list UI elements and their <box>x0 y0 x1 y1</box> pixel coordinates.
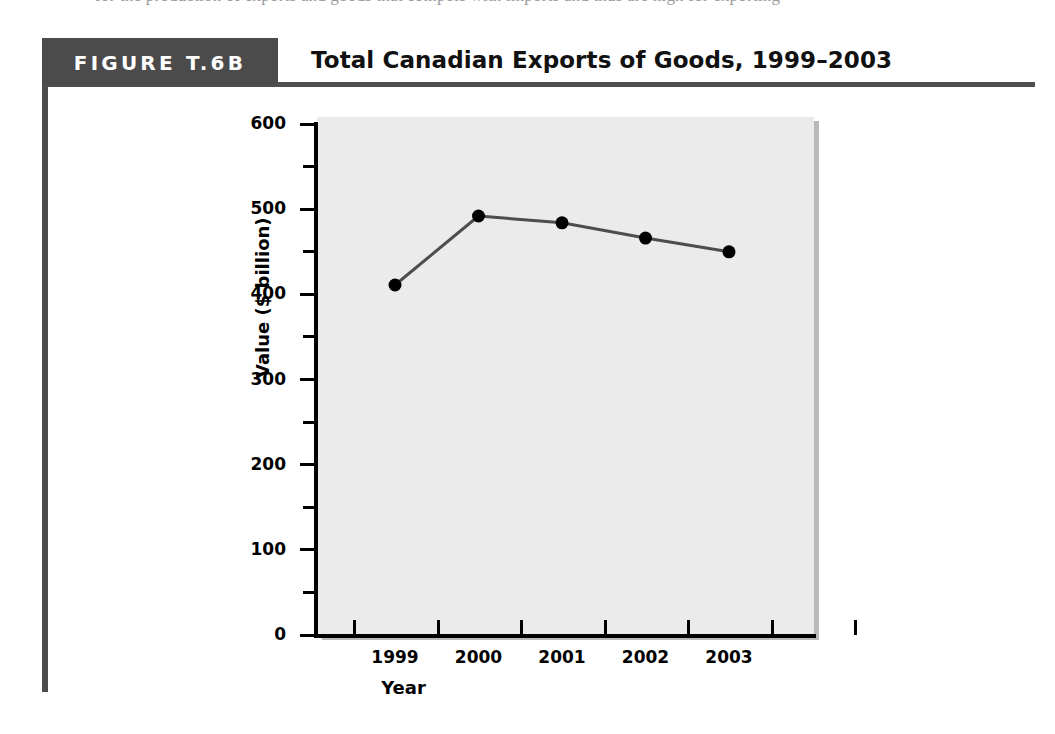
data-point-marker <box>639 232 652 245</box>
line-chart: 0100200300400500600 19992000200120022003… <box>0 0 1055 734</box>
data-point-marker <box>389 279 402 292</box>
figure-frame: FIGURE T.6B Total Canadian Exports of Go… <box>0 0 1055 734</box>
series-markers <box>389 210 736 292</box>
data-series-layer <box>0 0 1055 734</box>
data-point-marker <box>723 245 736 258</box>
data-point-marker <box>472 210 485 223</box>
data-point-marker <box>556 216 569 229</box>
